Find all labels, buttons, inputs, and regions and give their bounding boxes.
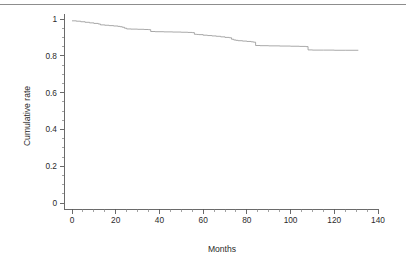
x-tick-label: 40: [155, 215, 165, 225]
y-axis: 00.20.40.60.81: [45, 14, 64, 209]
x-tick-label: 140: [371, 215, 385, 225]
x-tick-label: 20: [111, 215, 121, 225]
x-tick-label: 100: [284, 215, 298, 225]
x-tick-label: 120: [327, 215, 341, 225]
figure-container: 00.20.40.60.81 020406080100120140 Cumula…: [0, 0, 406, 263]
x-tick-label: 60: [199, 215, 209, 225]
y-axis-title: Cumulative rate: [22, 86, 32, 146]
km-step-line: [72, 21, 358, 50]
chart-plot: 00.20.40.60.81 020406080100120140 Cumula…: [0, 0, 406, 263]
y-tick-label: 0.4: [45, 124, 57, 134]
y-tick-label: 1: [52, 14, 57, 24]
x-axis-title: Months: [208, 244, 236, 254]
x-tick-label: 0: [70, 215, 75, 225]
x-axis: 020406080100120140: [64, 209, 385, 225]
y-tick-label: 0.6: [45, 88, 57, 98]
km-curve-series: [72, 21, 358, 50]
y-tick-label: 0.8: [45, 51, 57, 61]
x-tick-label: 80: [242, 215, 252, 225]
y-tick-label: 0.2: [45, 161, 57, 171]
y-tick-label: 0: [52, 198, 57, 208]
